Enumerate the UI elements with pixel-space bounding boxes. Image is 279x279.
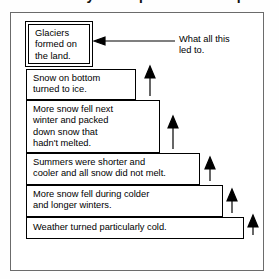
up-arrow-icon bbox=[205, 157, 215, 169]
staircase-diagram: Glaciers formed on the land. Snow on bot… bbox=[0, 0, 279, 279]
step-line: More snow fell during colder bbox=[33, 189, 222, 200]
step-line: down snow that bbox=[33, 127, 159, 138]
step-box-more-snow-colder-winters[interactable]: More snow fell during colder and longer … bbox=[26, 185, 223, 217]
step-line: More snow fell next bbox=[33, 104, 159, 115]
step-box-glaciers-formed[interactable]: Glaciers formed on the land. bbox=[28, 24, 90, 64]
step-line: cooler and all snow did not melt. bbox=[33, 168, 199, 179]
up-arrow-icon bbox=[145, 66, 155, 78]
step-line: turned to ice. bbox=[33, 84, 135, 95]
step-box-weather-turned-cold[interactable]: Weather turned particularly cold. bbox=[26, 217, 244, 239]
up-arrow-icon bbox=[168, 116, 178, 128]
step-line: formed on bbox=[35, 39, 89, 50]
step-line: the land. bbox=[35, 51, 89, 62]
step-box-snow-turned-to-ice[interactable]: Snow on bottom turned to ice. bbox=[26, 69, 136, 100]
step-line: winter and packed bbox=[33, 115, 159, 126]
step-line: Glaciers bbox=[35, 28, 89, 39]
step-line: Weather turned particularly cold. bbox=[33, 222, 243, 233]
step-line: and longer winters. bbox=[33, 200, 222, 211]
step-line: hadn't melted. bbox=[33, 138, 159, 149]
callout-arrowhead-icon bbox=[94, 37, 105, 45]
step-box-summers-shorter-cooler[interactable]: Summers were shorter and cooler and all … bbox=[26, 153, 200, 185]
step-box-more-snow-fell-next-winter[interactable]: More snow fell next winter and packed do… bbox=[26, 100, 160, 153]
up-arrow-icon bbox=[248, 215, 258, 227]
step-line: Summers were shorter and bbox=[33, 157, 199, 168]
callout-line: led to. bbox=[179, 45, 230, 56]
step-line: Snow on bottom bbox=[33, 73, 135, 84]
callout-line: What all this bbox=[179, 34, 230, 45]
callout-what-all-this-led-to: What all this led to. bbox=[179, 34, 230, 57]
up-arrow-icon bbox=[227, 189, 237, 201]
page-root: Vocabulary — Sequence the Steps Glaciers… bbox=[0, 0, 279, 279]
